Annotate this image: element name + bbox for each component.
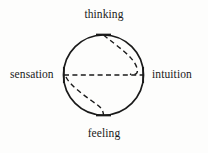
s-curve-lower xyxy=(66,77,104,115)
axis-label-intuition: intuition xyxy=(152,68,192,80)
jung-compass-diagram: thinking feeling sensation intuition xyxy=(0,0,208,153)
axis-label-sensation: sensation xyxy=(10,68,54,80)
s-curve-upper xyxy=(104,35,138,75)
axis-label-feeling: feeling xyxy=(0,127,208,139)
axis-label-thinking: thinking xyxy=(0,8,208,20)
